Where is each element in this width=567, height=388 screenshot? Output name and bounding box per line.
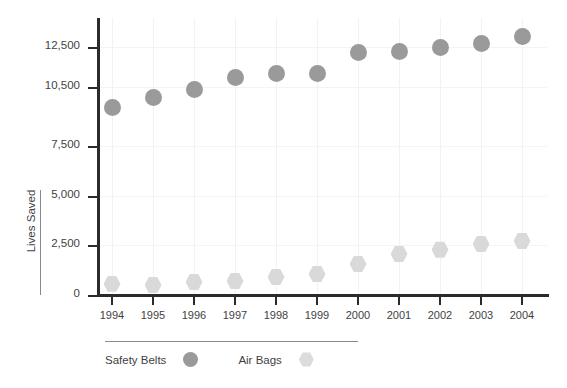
x-axis-tick (480, 296, 482, 305)
x-axis-tick (193, 296, 195, 305)
data-point-marker[interactable] (432, 241, 449, 258)
x-axis-tick (152, 296, 154, 305)
x-axis-tick (275, 296, 277, 305)
y-axis-tick-label: 10,500 (20, 79, 80, 91)
data-point-marker[interactable] (391, 43, 408, 60)
y-axis-tick-label: 12,500 (20, 39, 80, 51)
gridline-horizontal (99, 196, 547, 197)
data-point-marker[interactable] (309, 65, 326, 82)
x-axis-tick (521, 296, 523, 305)
data-point-marker[interactable] (104, 275, 121, 292)
data-point-marker[interactable] (473, 235, 490, 252)
x-axis-tick (111, 296, 113, 305)
chart-container: 02,5005,0007,50010,50012,500 19941995199… (0, 0, 567, 388)
data-point-marker[interactable] (186, 274, 203, 291)
data-point-marker[interactable] (268, 268, 285, 285)
data-point-marker[interactable] (514, 28, 531, 45)
y-axis-tick (88, 245, 99, 247)
y-axis-tick (88, 295, 99, 297)
y-axis-tick (88, 196, 99, 198)
gridline-vertical (481, 18, 482, 295)
chart-title-cutoff (96, 0, 296, 3)
gridline-vertical (153, 18, 154, 295)
legend-item-safety-belts[interactable]: Safety Belts (105, 352, 198, 367)
gridline-vertical (276, 18, 277, 295)
x-axis-tick (316, 296, 318, 305)
chart-legend: Safety Belts Air Bags (105, 352, 354, 367)
data-point-marker[interactable] (391, 245, 408, 262)
data-point-marker[interactable] (350, 255, 367, 272)
data-point-marker[interactable] (432, 39, 449, 56)
data-point-marker[interactable] (145, 89, 162, 106)
data-point-marker[interactable] (350, 44, 367, 61)
y-axis-tick (88, 87, 99, 89)
x-axis-tick-label: 2004 (497, 309, 547, 321)
gridline-vertical (194, 18, 195, 295)
gridline-vertical (112, 18, 113, 295)
x-axis-tick (357, 296, 359, 305)
data-point-marker[interactable] (268, 65, 285, 82)
legend-item-air-bags[interactable]: Air Bags (238, 352, 313, 367)
data-point-marker[interactable] (473, 35, 490, 52)
gridline-vertical (235, 18, 236, 295)
gridline-horizontal (99, 146, 547, 147)
x-axis-tick (398, 296, 400, 305)
gridline-vertical (317, 18, 318, 295)
y-axis-tick (88, 47, 99, 49)
y-axis-title: Lives Saved (25, 166, 37, 276)
legend-swatch-circle-icon (183, 352, 198, 367)
data-point-marker[interactable] (309, 265, 326, 282)
gridline-horizontal (99, 87, 547, 88)
data-point-marker[interactable] (227, 69, 244, 86)
legend-label-air-bags: Air Bags (238, 354, 281, 366)
legend-label-safety-belts: Safety Belts (105, 354, 166, 366)
gridline-vertical (522, 18, 523, 295)
legend-swatch-hexagon-icon (299, 352, 314, 367)
x-axis-tick (439, 296, 441, 305)
legend-divider (105, 341, 358, 342)
data-point-marker[interactable] (514, 232, 531, 249)
data-point-marker[interactable] (227, 273, 244, 290)
y-axis-title-rule (40, 190, 41, 295)
y-axis-tick-label: 7,500 (20, 138, 80, 150)
data-point-marker[interactable] (145, 276, 162, 293)
plot-area (99, 18, 547, 295)
x-axis-tick (234, 296, 236, 305)
data-point-marker[interactable] (104, 99, 121, 116)
data-point-marker[interactable] (186, 81, 203, 98)
y-axis-tick (88, 146, 99, 148)
y-axis-line (97, 18, 100, 297)
y-axis-tick-label: 0 (20, 287, 80, 299)
